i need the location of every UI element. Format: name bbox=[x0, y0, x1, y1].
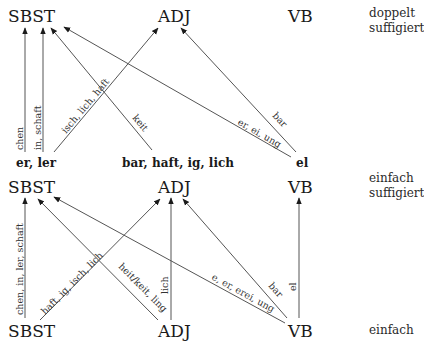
label-haft-ig-isch-lich: haft, ig, isch, lich bbox=[39, 250, 105, 317]
edge-bar-top bbox=[181, 28, 296, 152]
source-el: el bbox=[296, 156, 309, 170]
edge-bar-bottom bbox=[183, 199, 287, 318]
label-bar-top: bar bbox=[271, 110, 290, 130]
middle-side-label-2: suffigiert bbox=[369, 186, 424, 200]
label-chen: chen bbox=[14, 127, 25, 150]
label-bar-bottom: bar bbox=[266, 280, 285, 300]
bottom-node-sbst: SBST bbox=[8, 321, 56, 341]
top-side-label-1: doppelt bbox=[369, 6, 415, 20]
source-bar-haft-ig-lich: bar, haft, ig, lich bbox=[122, 156, 234, 170]
middle-node-sbst: SBST bbox=[8, 177, 56, 197]
label-e-er-erei-ung: e, er, erei, ung bbox=[210, 271, 277, 314]
edge-isch-lich-haft bbox=[54, 28, 158, 152]
middle-node-adj: ADJ bbox=[157, 177, 191, 197]
top-node-sbst: SBST bbox=[8, 6, 56, 26]
label-in-schaft: in, schaft bbox=[32, 105, 43, 150]
top-node-vb: VB bbox=[287, 6, 313, 26]
middle-node-vb: VB bbox=[287, 177, 313, 197]
label-lich: lich bbox=[159, 276, 170, 294]
label-el: el bbox=[287, 282, 298, 291]
top-node-adj: ADJ bbox=[157, 6, 191, 26]
source-er-ler: er, ler bbox=[16, 156, 57, 170]
label-keit: keit bbox=[130, 112, 150, 133]
middle-side-label-1: einfach bbox=[369, 171, 414, 185]
word-formation-diagram: SBST ADJ VB doppelt suffigiert er, ler b… bbox=[0, 0, 424, 345]
top-side-label-2: suffigiert bbox=[369, 21, 424, 35]
label-chen-in-ler-schaft: chen, in, ler, schaft bbox=[14, 223, 25, 315]
bottom-node-vb: VB bbox=[287, 321, 313, 341]
label-isch-lich-haft: isch, lich, haft bbox=[59, 76, 111, 135]
bottom-node-adj: ADJ bbox=[157, 321, 191, 341]
bottom-side-label-1: einfach bbox=[369, 323, 414, 337]
